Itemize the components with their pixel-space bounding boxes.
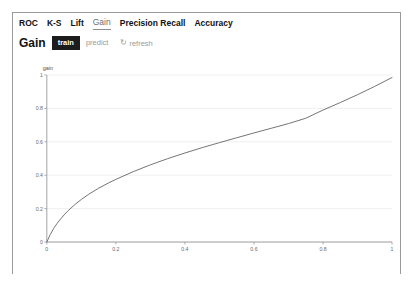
svg-text:0.8: 0.8 bbox=[319, 246, 326, 252]
series-lines bbox=[47, 78, 392, 243]
svg-text:0: 0 bbox=[45, 246, 48, 252]
gain-chart-panel: ROC K-S Lift Gain Precision Recall Accur… bbox=[12, 12, 401, 274]
refresh-icon: ↻ bbox=[120, 39, 127, 47]
chart-toolbar: Gain train predict ↻ refresh bbox=[19, 35, 153, 51]
tab-gain[interactable]: Gain bbox=[93, 17, 111, 30]
tab-accuracy[interactable]: Accuracy bbox=[194, 18, 232, 29]
tab-precision-recall[interactable]: Precision Recall bbox=[120, 18, 186, 29]
svg-text:0.6: 0.6 bbox=[36, 139, 43, 145]
y-axis-title: gain bbox=[43, 65, 53, 71]
svg-text:0.2: 0.2 bbox=[36, 206, 43, 212]
svg-text:0.2: 0.2 bbox=[112, 246, 119, 252]
refresh-label: refresh bbox=[129, 39, 152, 48]
predict-button[interactable]: predict bbox=[80, 36, 115, 50]
gain-curve-train bbox=[47, 78, 392, 243]
tab-lift[interactable]: Lift bbox=[71, 18, 84, 29]
svg-text:1: 1 bbox=[391, 246, 394, 252]
tab-roc[interactable]: ROC bbox=[19, 18, 38, 29]
refresh-button[interactable]: ↻ refresh bbox=[120, 39, 152, 48]
svg-text:0: 0 bbox=[40, 239, 43, 245]
svg-text:1: 1 bbox=[40, 72, 43, 78]
axes bbox=[47, 75, 392, 242]
svg-text:0.6: 0.6 bbox=[250, 246, 257, 252]
gain-chart: 00.20.40.60.8100.20.40.60.81 gain bbox=[13, 53, 400, 274]
svg-text:0.8: 0.8 bbox=[36, 105, 43, 111]
grid-lines bbox=[47, 75, 392, 242]
axis-ticks: 00.20.40.60.8100.20.40.60.81 bbox=[36, 72, 394, 252]
svg-text:0.4: 0.4 bbox=[181, 246, 188, 252]
chart-canvas: 00.20.40.60.8100.20.40.60.81 gain bbox=[13, 53, 400, 274]
svg-text:0.4: 0.4 bbox=[36, 172, 43, 178]
train-button[interactable]: train bbox=[52, 36, 80, 50]
dataset-toggle-group: train predict bbox=[52, 36, 115, 50]
page-title: Gain bbox=[19, 37, 46, 50]
metric-tab-bar: ROC K-S Lift Gain Precision Recall Accur… bbox=[13, 13, 400, 34]
tab-ks[interactable]: K-S bbox=[47, 18, 62, 29]
